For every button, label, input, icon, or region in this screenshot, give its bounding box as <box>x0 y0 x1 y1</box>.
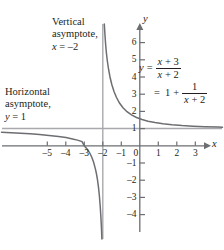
vertical-asymptote-eq: = <box>57 41 68 52</box>
x-tick-label--3: –3 <box>76 148 92 158</box>
vertical-asymptote-annotation-equation: x = –2 <box>52 41 98 53</box>
equation-equals-2: = <box>154 87 160 99</box>
x-tick-label-2: 2 <box>169 148 185 158</box>
coordinate-plane <box>0 0 224 250</box>
function-equation: y = x + 3 x + 2 = 1 + 1 x + 2 <box>139 57 207 104</box>
y-tick-label--2: –2 <box>120 175 137 185</box>
horizontal-asymptote-value: 1 <box>21 111 26 122</box>
equation-fraction-1-denominator: x + 2 <box>156 69 181 80</box>
frac2-den-const: 2 <box>200 94 205 105</box>
equation-fraction-2-numerator: 1 <box>190 81 199 92</box>
horizontal-asymptote-annotation-line2: asymptote, <box>5 98 51 110</box>
function-equation-row1: y = x + 3 x + 2 <box>139 57 207 79</box>
equation-fraction-2-denominator: x + 2 <box>182 94 207 105</box>
frac1-num-const: 3 <box>173 56 178 67</box>
equation-fraction-2: 1 x + 2 <box>182 81 207 105</box>
y-tick-label-1: 1 <box>123 123 137 133</box>
horizontal-asymptote-annotation-equation: y = 1 <box>5 111 51 123</box>
horizontal-asymptote-annotation: Horizontal asymptote, y = 1 <box>5 86 51 123</box>
function-equation-row2: = 1 + 1 x + 2 <box>153 82 207 104</box>
vertical-asymptote-annotation-line1: Vertical <box>52 16 98 28</box>
y-tick-label--3: –3 <box>120 192 137 202</box>
vertical-asymptote-value: –2 <box>68 41 79 52</box>
frac2-den-plus: + <box>189 94 200 105</box>
graph-figure: –5 –4 –3 –2 –1 0 1 2 3 6 5 4 3 2 1 –1 –2… <box>0 0 224 250</box>
equation-fraction-1-numerator: x + 3 <box>156 56 181 67</box>
y-tick-label-6: 6 <box>123 37 137 47</box>
horizontal-asymptote-eq: = <box>10 111 21 122</box>
y-tick-label--1: –1 <box>120 158 137 168</box>
y-axis-arrowhead <box>136 23 143 30</box>
frac1-den-const: 2 <box>173 69 178 80</box>
x-tick-label--2: –2 <box>95 148 111 158</box>
y-tick-label-5: 5 <box>123 54 137 64</box>
x-tick-label--5: –5 <box>39 148 55 158</box>
vertical-asymptote-annotation: Vertical asymptote, x = –2 <box>52 16 98 53</box>
equation-plus: + <box>173 87 179 99</box>
equation-one: 1 <box>165 87 170 99</box>
frac1-num-plus: + <box>162 56 173 67</box>
x-axis-arrowhead <box>204 142 211 149</box>
x-tick-label--4: –4 <box>58 148 74 158</box>
x-tick-label-0: 0 <box>128 148 144 158</box>
x-axis-label: x <box>212 138 217 149</box>
vertical-asymptote-annotation-line2: asymptote, <box>52 28 98 40</box>
equation-lhs: y <box>139 62 144 74</box>
equation-fraction-1: x + 3 x + 2 <box>156 56 181 80</box>
y-tick-label-3: 3 <box>123 89 137 99</box>
x-tick-label-3: 3 <box>187 148 203 158</box>
frac1-den-plus: + <box>162 69 173 80</box>
horizontal-asymptote-annotation-line1: Horizontal <box>5 86 51 98</box>
x-tick-label-1: 1 <box>150 148 166 158</box>
y-tick-label-2: 2 <box>123 106 137 116</box>
y-tick-label--4: –4 <box>120 209 137 219</box>
equation-equals-1: = <box>147 62 153 74</box>
y-tick-label-4: 4 <box>123 72 137 82</box>
y-axis-label: y <box>143 13 148 24</box>
